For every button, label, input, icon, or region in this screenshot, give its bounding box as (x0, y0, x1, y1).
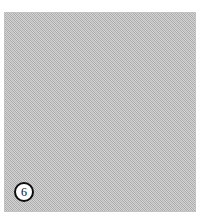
panel-number-text: 6 (21, 186, 27, 198)
gray-image-panel (4, 12, 196, 212)
figure-plate: 6 (0, 0, 204, 223)
panel-number-badge: 6 (14, 182, 34, 202)
